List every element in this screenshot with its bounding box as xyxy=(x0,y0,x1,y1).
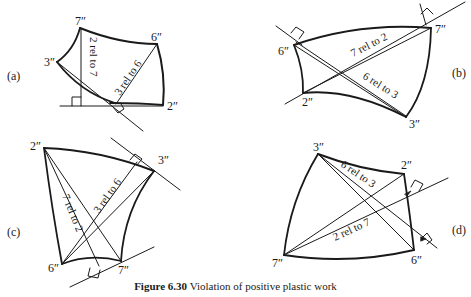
rel-3-to-6-c: 3 rel to 6 xyxy=(91,176,124,216)
rel-7-to-2-c: 7 rel to 2 xyxy=(60,192,86,233)
vertex-3-b: 3″ xyxy=(409,117,420,131)
rel-2-to-7-a: 2 rel to 7 xyxy=(88,37,100,77)
vertex-2-c: 2″ xyxy=(30,139,41,153)
panel-d xyxy=(284,154,448,259)
vertex-3-d: 3″ xyxy=(313,140,324,154)
rel-7-to-2-b: 7 rel to 2 xyxy=(348,30,389,59)
figure-caption-text: Violation of positive plastic work xyxy=(187,280,337,292)
panel-a xyxy=(57,28,164,131)
vertex-7-b: 7″ xyxy=(435,22,446,36)
vertex-7-a: 7″ xyxy=(75,14,86,28)
panel-d-label: (d) xyxy=(452,223,466,237)
panel-b-label: (b) xyxy=(452,66,466,80)
panel-c-label: (c) xyxy=(7,225,20,239)
vertex-6-a: 6″ xyxy=(151,30,162,44)
vertex-6-c: 6″ xyxy=(48,261,59,275)
figure-caption: Figure 6.30 Violation of positive plasti… xyxy=(0,280,471,292)
vertex-2-d: 2″ xyxy=(401,158,412,172)
figure-caption-label: Figure 6.30 xyxy=(134,280,187,292)
figure-canvas: (a) 7″ 6″ 3″ 2″ 2 rel to 7 3 rel to 6 (b… xyxy=(0,0,471,297)
rel-3-to-6-a: 3 rel to 6 xyxy=(112,57,144,97)
panel-a-label: (a) xyxy=(7,69,20,83)
vertex-7-d: 7″ xyxy=(272,256,283,270)
vertex-6-b: 6″ xyxy=(278,44,289,58)
rel-6-to-3-d: 6 rel to 3 xyxy=(339,158,379,190)
vertex-3-c: 3″ xyxy=(158,153,169,167)
rel-6-to-3-b: 6 rel to 3 xyxy=(361,70,401,101)
vertex-3-a: 3″ xyxy=(44,55,55,69)
vertex-6-d: 6″ xyxy=(411,253,422,267)
vertex-2-b: 2″ xyxy=(302,95,313,109)
vertex-2-a: 2″ xyxy=(167,99,178,113)
vertex-7-c: 7″ xyxy=(118,263,129,277)
